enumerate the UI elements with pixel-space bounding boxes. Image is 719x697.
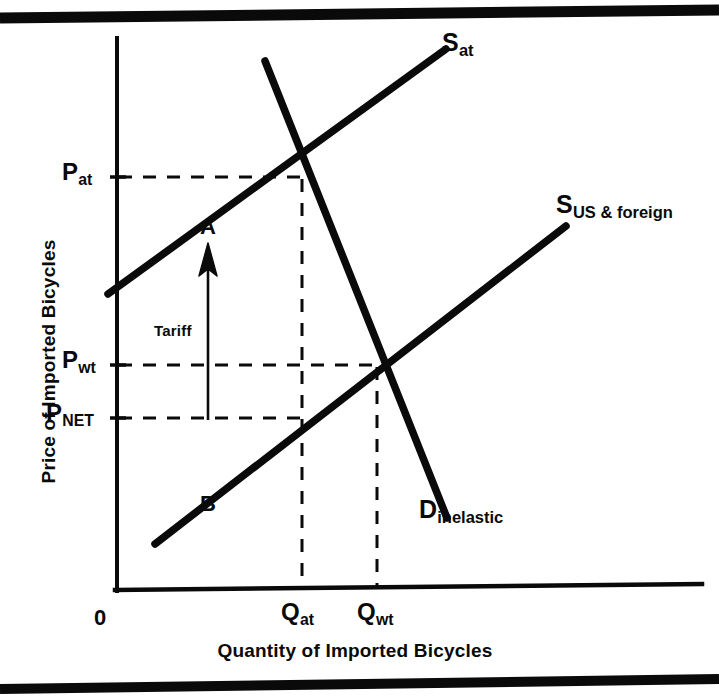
curve-label-d-inelastic-main: D xyxy=(419,495,437,523)
bottom-rule xyxy=(0,679,719,689)
y-tick-label-p-wt-sub: wt xyxy=(78,359,96,376)
top-rule xyxy=(0,10,719,18)
x-axis-title: Quantity of Imported Bicycles xyxy=(190,641,520,660)
x-axis-line xyxy=(115,584,702,590)
x-tick-label-q-at-sub: at xyxy=(300,611,314,628)
curve-label-d-inelastic: Dinelastic xyxy=(419,497,503,522)
y-axis-title: Price of Imported Bicycles xyxy=(39,212,58,512)
curve-label-s-at: Sat xyxy=(442,30,474,55)
y-tick-label-p-net-sub: NET xyxy=(62,412,94,429)
curve-label-s-us-foreign-main: S xyxy=(556,190,573,218)
origin-label: 0 xyxy=(94,607,106,629)
y-tick-label-p-wt-main: P xyxy=(62,346,78,373)
curve-d-inelastic xyxy=(265,61,447,518)
curve-label-s-us-foreign-sub: US & foreign xyxy=(573,203,673,221)
curve-label-s-us-foreign: SUS & foreign xyxy=(556,192,673,217)
y-tick-label-p-wt: Pwt xyxy=(62,348,96,372)
x-tick-label-q-at: Qat xyxy=(281,600,314,624)
curve-label-s-at-main: S xyxy=(442,28,459,56)
figure-canvas: Price of Imported Bicycles Quantity of I… xyxy=(0,0,719,697)
point-label-b: B xyxy=(200,493,216,515)
y-tick-label-p-net-main: P xyxy=(46,399,62,426)
y-tick-label-p-at-main: P xyxy=(62,158,78,185)
x-tick-label-q-wt-sub: wt xyxy=(376,611,394,628)
point-label-a: A xyxy=(200,216,216,238)
tariff-diagram-graphic xyxy=(0,0,719,697)
x-tick-label-q-wt-main: Q xyxy=(357,598,376,625)
x-tick-label-q-at-main: Q xyxy=(281,598,300,625)
curve-label-s-at-sub: at xyxy=(459,41,474,59)
tariff-annotation-label: Tariff xyxy=(154,323,192,338)
x-tick-label-q-wt: Qwt xyxy=(357,600,393,624)
y-tick-label-p-at-sub: at xyxy=(78,171,92,188)
y-tick-label-p-net: PNET xyxy=(46,401,94,425)
y-tick-label-p-at: Pat xyxy=(62,160,92,184)
curve-label-d-inelastic-sub: inelastic xyxy=(437,508,503,526)
